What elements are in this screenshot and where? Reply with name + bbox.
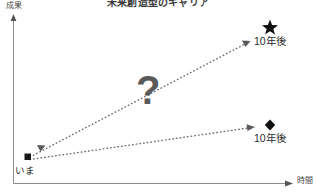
lower-growth-path-line bbox=[30, 128, 248, 160]
chart-canvas: 未来創造型のキャリア 成果 時間 いま 10年後 10年後 ? bbox=[0, 0, 316, 195]
x-axis-arrowhead bbox=[285, 181, 293, 187]
upper-growth-path-arrowhead-right bbox=[242, 41, 251, 48]
marker-diamond-ten-years bbox=[265, 120, 275, 131]
lower-growth-path-arrowhead-right bbox=[247, 124, 256, 131]
upper-growth-path-arrowhead-left bbox=[37, 145, 46, 152]
y-axis-label: 成果 bbox=[6, 2, 22, 10]
upper-endpoint-label: 10年後 bbox=[254, 36, 286, 47]
origin-label-now: いま bbox=[15, 166, 35, 176]
uncertainty-question-mark: ? bbox=[136, 70, 160, 110]
x-axis-label: 時間 bbox=[297, 177, 313, 185]
y-axis-arrowhead bbox=[11, 14, 17, 21]
lower-endpoint-label: 10年後 bbox=[254, 133, 286, 144]
marker-star-ten-years bbox=[262, 20, 278, 35]
marker-now-square bbox=[25, 154, 32, 161]
